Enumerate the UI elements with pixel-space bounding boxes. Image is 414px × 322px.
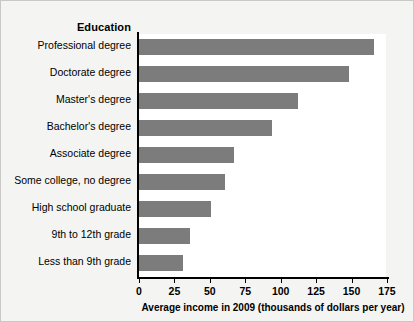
x-tick-mark bbox=[245, 277, 246, 283]
bar-row: Associate degree bbox=[1, 142, 414, 169]
bar bbox=[139, 201, 211, 217]
bar-category-label: 9th to 12th grade bbox=[1, 228, 131, 240]
bar bbox=[139, 255, 183, 271]
bar-row: 9th to 12th grade bbox=[1, 223, 414, 250]
bar bbox=[139, 147, 234, 163]
x-tick-mark bbox=[281, 277, 282, 283]
x-tick-mark bbox=[352, 277, 353, 283]
bar-row: High school graduate bbox=[1, 196, 414, 223]
bar-category-label: Some college, no degree bbox=[1, 174, 131, 186]
x-tick-mark bbox=[316, 277, 317, 283]
x-tick-mark bbox=[139, 277, 140, 283]
bar-category-label: Bachelor's degree bbox=[1, 120, 131, 132]
x-tick-label: 125 bbox=[296, 285, 336, 297]
bar-row: Bachelor's degree bbox=[1, 115, 414, 142]
x-tick-label: 75 bbox=[225, 285, 265, 297]
bar-chart-figure: Education Professional degreeDoctorate d… bbox=[0, 0, 414, 322]
x-tick-label: 100 bbox=[261, 285, 301, 297]
bar-category-label: Professional degree bbox=[1, 39, 131, 51]
bar-category-label: High school graduate bbox=[1, 201, 131, 213]
x-tick-label: 50 bbox=[190, 285, 230, 297]
bar bbox=[139, 228, 190, 244]
bar bbox=[139, 120, 272, 136]
x-axis-title: Average income in 2009 (thousands of dol… bbox=[138, 302, 408, 313]
x-tick-label: 25 bbox=[154, 285, 194, 297]
x-tick-mark bbox=[174, 277, 175, 283]
bar bbox=[139, 174, 225, 190]
bar bbox=[139, 39, 374, 55]
bar-row: Master's degree bbox=[1, 88, 414, 115]
bar-row: Doctorate degree bbox=[1, 61, 414, 88]
x-tick-label: 175 bbox=[367, 285, 407, 297]
x-tick-label: 0 bbox=[119, 285, 159, 297]
bar-category-label: Less than 9th grade bbox=[1, 255, 131, 267]
category-axis-title: Education bbox=[1, 21, 131, 33]
x-tick-mark bbox=[210, 277, 211, 283]
bar-row: Some college, no degree bbox=[1, 169, 414, 196]
bar-category-label: Doctorate degree bbox=[1, 66, 131, 78]
bar-category-label: Associate degree bbox=[1, 147, 131, 159]
bar-category-label: Master's degree bbox=[1, 93, 131, 105]
bar bbox=[139, 93, 298, 109]
bar bbox=[139, 66, 349, 82]
bar-row: Professional degree bbox=[1, 34, 414, 61]
bar-row: Less than 9th grade bbox=[1, 250, 414, 277]
x-tick-mark bbox=[387, 277, 388, 283]
x-tick-label: 150 bbox=[332, 285, 372, 297]
